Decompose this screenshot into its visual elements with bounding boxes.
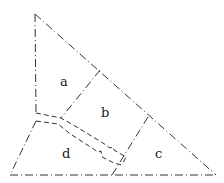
- region-label-d: d: [62, 146, 70, 161]
- region-label-c: c: [155, 146, 162, 161]
- region-label-b: b: [101, 105, 109, 120]
- region-label-a: a: [60, 74, 68, 89]
- region-labels: a b c d: [0, 0, 224, 183]
